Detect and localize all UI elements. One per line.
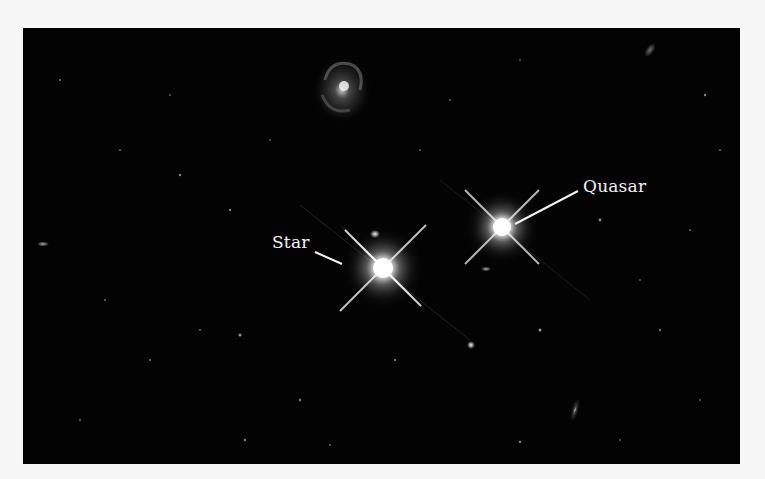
astronomy-photo — [23, 28, 740, 464]
star-label: Star — [272, 232, 310, 252]
star-field — [23, 28, 740, 464]
star-object — [340, 225, 426, 311]
quasar-label: Quasar — [583, 176, 646, 196]
spiral-galaxy — [312, 56, 372, 124]
quasar-object — [464, 189, 540, 265]
star-pointer-line — [315, 252, 342, 264]
